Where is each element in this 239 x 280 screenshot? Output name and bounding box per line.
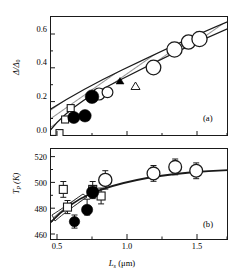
- xaxis-label-unit: (μm): [116, 258, 135, 268]
- panel-a-ytick-1: 0.2: [17, 92, 47, 101]
- xaxis-label: Ls (μm): [22, 258, 222, 269]
- panel-a-open-triangle: [131, 82, 140, 90]
- panel-b-ytick-0: 460: [15, 231, 47, 240]
- xtick-2: 1.5: [185, 242, 209, 251]
- xtick-0: 0.5: [45, 242, 69, 251]
- panel-a-ylabel-main: Δ: [11, 70, 21, 75]
- panel-a-ytick-0: 0.0: [17, 126, 47, 135]
- panel-a-ytick-3: 0.6: [17, 25, 47, 34]
- panel-a-open-circles-right: [146, 31, 207, 74]
- panel-b-ytick-3: 520: [15, 153, 47, 162]
- panel-a-label: (a): [203, 113, 213, 123]
- panel-a-ylabel-slash: /: [11, 68, 21, 70]
- panel-a-ylabel: Δ/Δ0: [11, 47, 22, 87]
- panel-b-ylabel-main: T: [11, 189, 21, 194]
- panel-b-plot: [50, 148, 228, 240]
- panel-b-ytick-2: 500: [15, 179, 47, 188]
- panel-a: Δ/Δ0 0.0 0.2 0.4 0.6: [0, 0, 239, 140]
- xtick-1: 1.0: [115, 242, 139, 251]
- panel-b: Tp (K) 460 480 500 520: [0, 140, 239, 280]
- panel-b-label: (b): [203, 219, 213, 229]
- panel-b-ytick-1: 480: [15, 205, 47, 214]
- figure-container: Δ/Δ0 0.0 0.2 0.4 0.6: [0, 0, 239, 280]
- panel-b-xtick-marks: [57, 234, 227, 240]
- panel-a-ytick-2: 0.4: [17, 58, 47, 67]
- panel-a-xtick-marks: [57, 131, 227, 136]
- panel-a-plot: [50, 16, 228, 136]
